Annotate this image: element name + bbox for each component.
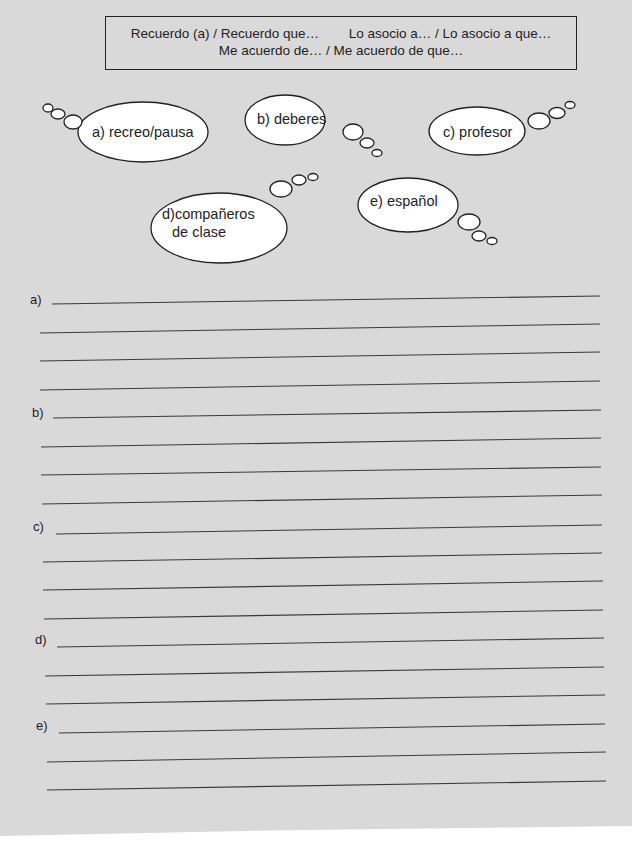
worksheet-page: Recuerdo (a) / Recuerdo que… Lo asocio a… [0, 0, 632, 836]
answer-line-b1 [53, 410, 601, 418]
answer-line-d3 [46, 695, 605, 704]
answer-line-c2 [43, 553, 602, 562]
answer-line-c1 [56, 525, 602, 534]
answer-line-b3 [41, 467, 601, 475]
answer-line-a2 [40, 324, 600, 333]
answer-line-a1 [52, 296, 600, 304]
answer-line-a4 [40, 381, 600, 390]
answer-line-b2 [41, 438, 601, 447]
answer-line-b4 [42, 495, 602, 504]
answer-line-e3 [47, 781, 606, 790]
answer-line-d2 [45, 667, 604, 676]
answer-line-c3 [43, 581, 603, 590]
answer-line-e1 [59, 724, 605, 733]
answer-line-a3 [40, 352, 600, 361]
answer-line-c4 [44, 610, 603, 619]
answer-lines-graphic [0, 0, 632, 836]
answer-line-e2 [47, 752, 606, 762]
answer-line-d1 [57, 638, 604, 647]
